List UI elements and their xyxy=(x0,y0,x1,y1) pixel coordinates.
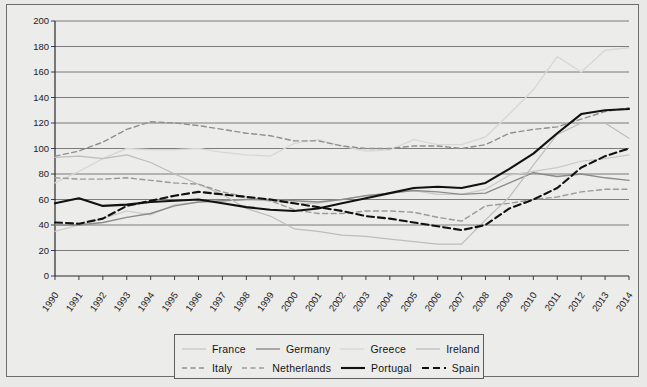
y-tick-label: 180 xyxy=(33,41,49,52)
x-tick-label: 2010 xyxy=(518,290,539,314)
legend-swatch-ireland-icon xyxy=(415,344,441,354)
y-tick-label: 120 xyxy=(33,117,49,128)
x-tick-label: 1995 xyxy=(159,290,180,314)
x-tick-label: 2004 xyxy=(374,290,395,314)
x-tick-label: 1992 xyxy=(87,290,108,314)
y-tick-label: 140 xyxy=(33,92,49,103)
x-tick-label: 2003 xyxy=(350,290,371,314)
legend-item-greece[interactable]: Greece xyxy=(339,343,406,355)
y-tick-label: 80 xyxy=(38,168,49,179)
chart-page: 020406080100120140160180200 199019911992… xyxy=(0,0,647,387)
legend-label: Spain xyxy=(452,362,480,374)
x-tick-label: 2007 xyxy=(446,290,467,314)
legend-item-ireland[interactable]: Ireland xyxy=(415,343,480,355)
legend-label: Germany xyxy=(286,343,331,355)
x-tick-label: 1991 xyxy=(63,290,84,314)
line-chart: 020406080100120140160180200 xyxy=(19,13,637,288)
x-tick-label: 2014 xyxy=(614,290,635,314)
x-tick-label: 2011 xyxy=(542,290,563,313)
y-tick-label: 20 xyxy=(38,245,49,256)
y-tick-label: 160 xyxy=(33,66,49,77)
x-tick-label: 2009 xyxy=(494,290,515,314)
legend-swatch-spain-icon xyxy=(421,363,447,373)
x-tick-label: 2006 xyxy=(422,290,443,314)
legend-label: Portugal xyxy=(371,362,412,374)
legend-swatch-netherlands-icon xyxy=(241,363,267,373)
x-tick-label: 1997 xyxy=(207,290,228,314)
x-tick-label: 1994 xyxy=(135,290,156,314)
legend-item-italy[interactable]: Italy xyxy=(181,362,232,374)
legend-label: Ireland xyxy=(446,343,480,355)
legend-item-spain[interactable]: Spain xyxy=(421,362,480,374)
x-tick-label: 1999 xyxy=(255,290,276,314)
x-tick-label: 2002 xyxy=(327,290,348,314)
y-tick-label: 60 xyxy=(38,194,49,205)
y-tick-label: 200 xyxy=(33,15,49,26)
x-tick-label: 2000 xyxy=(279,290,300,314)
legend-row-2: ItalyNetherlandsPortugalSpain xyxy=(181,358,477,377)
legend-label: Netherlands xyxy=(272,362,331,374)
legend-label: Greece xyxy=(370,343,406,355)
legend-item-netherlands[interactable]: Netherlands xyxy=(241,362,331,374)
chart-legend: FranceGermanyGreeceIreland ItalyNetherla… xyxy=(174,334,484,379)
legend-item-portugal[interactable]: Portugal xyxy=(340,362,412,374)
x-tick-label: 2008 xyxy=(470,290,491,314)
x-tick-label: 2012 xyxy=(566,290,587,314)
x-tick-label: 1998 xyxy=(231,290,252,314)
legend-row-1: FranceGermanyGreeceIreland xyxy=(181,339,477,358)
legend-label: Italy xyxy=(212,362,232,374)
x-tick-label: 2005 xyxy=(398,290,419,314)
chart-canvas: 020406080100120140160180200 xyxy=(19,13,637,288)
x-tick-label: 1993 xyxy=(111,290,132,314)
y-tick-label: 100 xyxy=(33,143,49,154)
legend-label: France xyxy=(212,343,246,355)
legend-swatch-greece-icon xyxy=(339,344,365,354)
x-tick-label: 1990 xyxy=(40,290,61,314)
y-tick-label: 0 xyxy=(44,270,49,281)
legend-swatch-germany-icon xyxy=(255,344,281,354)
legend-item-france[interactable]: France xyxy=(181,343,246,355)
legend-swatch-portugal-icon xyxy=(340,363,366,373)
y-tick-label: 40 xyxy=(38,219,49,230)
x-tick-label: 2001 xyxy=(303,290,324,314)
legend-swatch-italy-icon xyxy=(181,363,207,373)
x-tick-label: 1996 xyxy=(183,290,204,314)
legend-swatch-france-icon xyxy=(181,344,207,354)
legend-item-germany[interactable]: Germany xyxy=(255,343,331,355)
figure-frame: 020406080100120140160180200 199019911992… xyxy=(6,4,639,377)
x-tick-label: 2013 xyxy=(590,290,611,314)
